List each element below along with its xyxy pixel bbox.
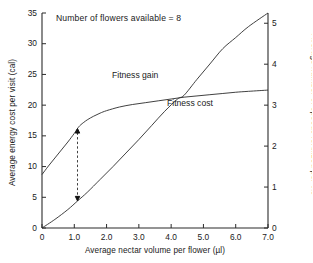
y-axis-left-tick-label: 5 [11,192,37,202]
y-axis-left-tick-label: 15 [11,130,37,140]
plot-vector-layer [0,0,312,263]
y-axis-left-tick-label: 35 [11,8,37,18]
y-axis-left-tick-label: 20 [11,100,37,110]
y-axis-right-tick-label: 5 [272,18,298,28]
x-axis-tick-label: 1.0 [59,232,89,242]
x-axis-tick-label: 3.0 [124,232,154,242]
y-axis-right-tick-label: 2 [272,141,298,151]
x-axis-tick-label: 6.0 [221,232,251,242]
x-axis-tick-label: 0 [27,232,57,242]
x-axis-tick-label: 7.0 [253,232,283,242]
arrow-head [75,128,79,133]
y-axis-left-tick-label: 30 [11,38,37,48]
x-axis-tick-label: 5.0 [188,232,218,242]
x-axis-tick-label: 4.0 [156,232,186,242]
figure-chart: Average energy cost per visit (cal) Aver… [0,0,312,263]
y-axis-right-tick-label: 0 [272,223,298,233]
arrow-head [75,196,79,201]
series-curve-fitness-gain [42,90,268,174]
y-axis-left-tick-label: 25 [11,69,37,79]
y-axis-right-tick-label: 1 [272,182,298,192]
chart-annotation-flower-count: Number of flowers available = 8 [56,13,181,23]
x-axis-title: Average nectar volume per flower (µl) [42,246,268,255]
y-axis-right-title: Average number of speeds fertilized per … [310,27,313,203]
series-label-fitness-cost: Fitness cost [167,98,213,108]
curves-group [42,13,268,228]
y-axis-right-tick-label: 3 [272,100,298,110]
series-label-fitness-gain: Fitness gain [112,70,158,80]
net-gain-arrow [75,128,79,200]
y-axis-left-tick-label: 0 [11,223,37,233]
y-axis-left-tick-label: 10 [11,161,37,171]
y-axis-right-tick-label: 4 [272,59,298,69]
axes-group [42,13,268,228]
series-curve-fitness-cost [42,13,268,228]
x-axis-tick-label: 2.0 [92,232,122,242]
